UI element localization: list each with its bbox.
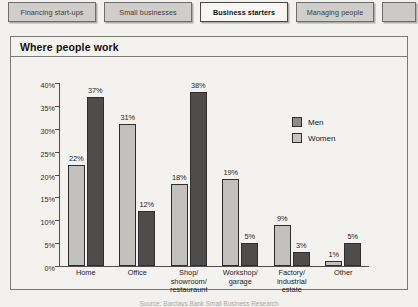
tab-label: Small businesses: [119, 8, 177, 17]
bar-value-label: 31%: [121, 113, 136, 122]
legend-swatch-men-icon: [292, 117, 302, 127]
legend-item-women: Women: [292, 133, 335, 143]
tab-bar: Financing start-ups Small businesses Bus…: [0, 0, 418, 26]
x-axis-category-label: Workshop/ garage: [215, 269, 267, 286]
panel-title: Where people work: [11, 37, 407, 57]
x-axis-category-label: Shop/ showroom/ restauraunt: [163, 269, 215, 295]
bar-women-2: [190, 92, 207, 266]
y-axis-tick-label: 25%: [41, 149, 55, 158]
bar-men-0: [68, 165, 85, 266]
bar-men-1: [119, 124, 136, 266]
bar-value-label: 5%: [245, 232, 255, 241]
y-axis-labels: 0%5%10%15%20%25%30%35%40%: [29, 85, 55, 265]
tab-blank[interactable]: [382, 2, 416, 22]
bar-value-label: 19%: [224, 168, 239, 177]
chart-panel: Where people work 0%5%10%15%20%25%30%35%…: [10, 36, 408, 290]
x-axis-category-label: Home: [60, 269, 112, 278]
tab-label: Managing people: [307, 8, 364, 17]
bar-men-2: [171, 184, 188, 266]
chart-legend: Men Women: [292, 117, 335, 149]
y-axis-tick-label: 15%: [41, 195, 55, 204]
tab-small-businesses[interactable]: Small businesses: [104, 2, 192, 22]
x-axis-category-label: Factory/ industrial estate: [266, 269, 318, 295]
bar-value-label: 9%: [277, 214, 287, 223]
tab-label: Business starters: [213, 8, 275, 17]
bar-value-label: 38%: [191, 81, 206, 90]
bar-women-3: [241, 243, 258, 266]
bar-women-0: [87, 97, 104, 266]
legend-swatch-women-icon: [292, 133, 302, 143]
legend-label-women: Women: [308, 134, 335, 143]
tab-managing-people[interactable]: Managing people: [296, 2, 374, 22]
footnote: Source: Barclays Bank Small Business Res…: [0, 300, 418, 307]
bar-value-label: 1%: [329, 250, 339, 259]
bar-value-label: 3%: [296, 241, 306, 250]
bar-value-label: 12%: [140, 200, 155, 209]
tab-business-starters[interactable]: Business starters: [200, 2, 288, 22]
y-axis-tick-label: 5%: [45, 241, 55, 250]
bar-women-1: [138, 211, 155, 266]
legend-item-men: Men: [292, 117, 335, 127]
bar-value-label: 22%: [69, 154, 84, 163]
y-axis-tick-label: 40%: [41, 81, 55, 90]
bar-women-4: [293, 252, 310, 266]
bar-men-4: [274, 225, 291, 266]
legend-label-men: Men: [308, 118, 324, 127]
bar-value-label: 18%: [172, 173, 187, 182]
bar-men-5: [325, 261, 342, 266]
tab-label: Financing start-ups: [20, 8, 83, 17]
bar-men-3: [222, 179, 239, 266]
y-axis-tick-label: 35%: [41, 103, 55, 112]
bar-series-container: 22%37%31%12%18%38%19%5%9%3%1%5%: [60, 83, 369, 266]
x-axis-line: [59, 266, 369, 267]
bar-value-label: 5%: [348, 232, 358, 241]
y-axis-tick-label: 30%: [41, 126, 55, 135]
tab-financing-start-ups[interactable]: Financing start-ups: [8, 2, 96, 22]
panel-title-text: Where people work: [20, 41, 119, 53]
x-axis-category-label: Other: [318, 269, 370, 278]
bar-value-label: 37%: [88, 86, 103, 95]
y-axis-tick-label: 0%: [45, 264, 55, 273]
chart-plot-area: 0%5%10%15%20%25%30%35%40% 22%37%31%12%18…: [11, 57, 407, 290]
bar-women-5: [344, 243, 361, 266]
x-axis-category-label: Office: [112, 269, 164, 278]
y-axis-tick-label: 20%: [41, 172, 55, 181]
y-axis-tick-label: 10%: [41, 218, 55, 227]
